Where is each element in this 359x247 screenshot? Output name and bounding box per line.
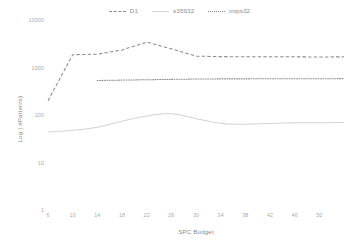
legend-item-s35932[interactable]: s35932 — [152, 8, 194, 14]
legend-item-mips32[interactable]: mips32 — [208, 8, 250, 14]
x-axis-tick-label: 18 — [119, 213, 125, 218]
plot-area — [48, 21, 344, 211]
x-axis-tick-label: 10 — [70, 213, 76, 218]
y-axis-tick-label: 10000 — [29, 18, 45, 23]
legend-label-mips32: mips32 — [229, 8, 250, 14]
x-axis-tick-label: 22 — [144, 213, 150, 218]
chart-container: D1s35932mips32 100001000100101 610141822… — [0, 0, 359, 247]
x-axis-tick-label: 30 — [193, 213, 199, 218]
x-axis-tick-label: 50 — [316, 213, 322, 218]
x-axis-tick-label: 26 — [168, 213, 174, 218]
x-axis-tick-label: 6 — [46, 213, 49, 218]
legend-item-d1[interactable]: D1 — [109, 8, 138, 14]
series-line-d1 — [48, 42, 344, 101]
y-axis-tick-label: 100 — [35, 113, 44, 118]
series-line-s35932 — [48, 114, 344, 132]
legend-swatch-s35932 — [152, 11, 169, 12]
legend-swatch-d1 — [109, 11, 126, 12]
x-axis-tick-label: 34 — [218, 213, 224, 218]
x-axis-tick-label: 42 — [267, 213, 273, 218]
x-axis-tick-labels: 61014182226303438424650 — [48, 213, 344, 225]
y-axis-title-wrapper: Log ( #Patterns) — [8, 20, 24, 210]
x-axis-tick-label: 38 — [242, 213, 248, 218]
y-axis-tick-label: 1000 — [32, 66, 44, 71]
x-axis-tick-label: 46 — [292, 213, 298, 218]
chart-legend: D1s35932mips32 — [0, 8, 359, 14]
y-axis-tick-label: 10 — [38, 161, 44, 166]
legend-label-d1: D1 — [130, 8, 138, 14]
x-axis-tick-label: 14 — [94, 213, 100, 218]
x-axis-title: SPC Budget — [48, 229, 344, 235]
series-line-mips32 — [97, 79, 344, 81]
y-axis-tick-label: 1 — [41, 208, 44, 213]
legend-label-s35932: s35932 — [173, 8, 194, 14]
series-canvas — [48, 21, 344, 211]
y-axis-title: Log ( #Patterns) — [17, 81, 23, 157]
legend-swatch-mips32 — [208, 11, 225, 12]
